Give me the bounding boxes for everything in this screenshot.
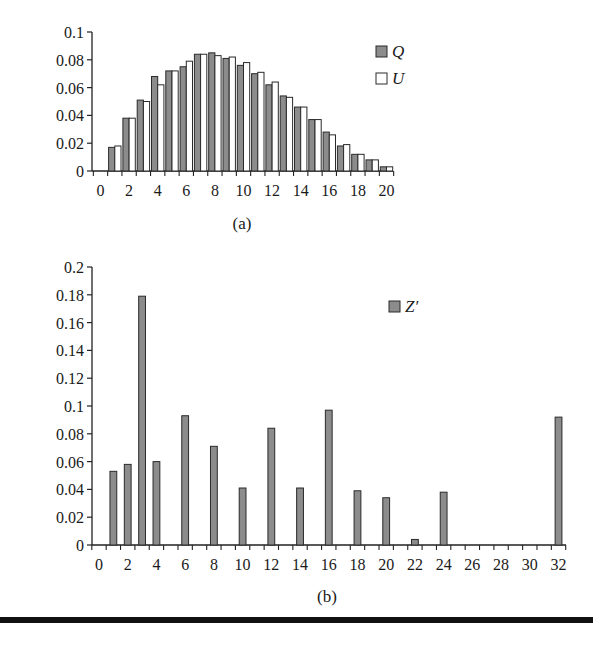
x-tick-label: 22 bbox=[407, 556, 423, 573]
legend-label-Z′: Z′ bbox=[405, 297, 418, 316]
bar-Z′-3 bbox=[139, 296, 146, 545]
legend-label-Q: Q bbox=[392, 42, 404, 61]
bar-U-1 bbox=[115, 146, 121, 171]
bar-Q-17 bbox=[337, 146, 343, 171]
x-tick-label: 4 bbox=[152, 556, 160, 573]
bar-Q-4 bbox=[152, 76, 158, 171]
x-tick-label: 32 bbox=[551, 556, 567, 573]
bar-U-9 bbox=[229, 57, 235, 171]
bar-Z′-22 bbox=[412, 539, 419, 545]
bar-Q-19 bbox=[366, 160, 372, 171]
x-tick-label: 18 bbox=[350, 182, 366, 199]
x-tick-label: 8 bbox=[211, 182, 219, 199]
bar-U-19 bbox=[372, 160, 378, 171]
x-tick-label: 10 bbox=[235, 556, 251, 573]
page-rule-divider bbox=[0, 617, 593, 623]
bar-Z′-24 bbox=[440, 492, 447, 545]
legend-swatch-Z′ bbox=[389, 301, 400, 312]
x-tick-label: 4 bbox=[154, 182, 162, 199]
bar-Q-18 bbox=[352, 154, 358, 171]
bar-Q-10 bbox=[237, 65, 243, 171]
bar-Q-15 bbox=[309, 120, 315, 171]
bar-Z′-8 bbox=[210, 446, 217, 545]
y-tick-label: 0.12 bbox=[56, 370, 84, 387]
y-tick-label: 0.18 bbox=[56, 287, 84, 304]
bar-Q-5 bbox=[166, 71, 172, 171]
chart-b-z-prime-distribution: 00.020.040.060.080.10.120.140.160.180.20… bbox=[0, 250, 593, 590]
x-tick-label: 0 bbox=[97, 182, 105, 199]
bar-Q-11 bbox=[252, 74, 258, 171]
bar-Q-2 bbox=[123, 118, 129, 171]
x-tick-label: 12 bbox=[264, 182, 280, 199]
bar-Q-3 bbox=[137, 100, 143, 171]
y-tick-label: 0.1 bbox=[64, 398, 84, 415]
x-tick-label: 28 bbox=[493, 556, 509, 573]
bar-U-14 bbox=[301, 107, 307, 171]
x-tick-label: 20 bbox=[379, 182, 395, 199]
legend-label-U: U bbox=[392, 69, 406, 88]
bar-U-18 bbox=[358, 154, 364, 171]
bar-Q-8 bbox=[209, 53, 215, 171]
x-tick-label: 16 bbox=[321, 182, 337, 199]
bar-U-7 bbox=[201, 54, 207, 171]
bar-Z′-1 bbox=[110, 471, 117, 545]
x-tick-label: 14 bbox=[293, 182, 309, 199]
legend-swatch-Q bbox=[376, 46, 387, 57]
x-tick-label: 10 bbox=[236, 182, 252, 199]
bar-Z′-4 bbox=[153, 462, 160, 545]
x-tick-label: 26 bbox=[464, 556, 480, 573]
bar-U-15 bbox=[315, 120, 321, 171]
figure: 00.020.040.060.080.102468101214161820QU … bbox=[0, 0, 593, 655]
bar-U-10 bbox=[244, 63, 250, 171]
y-tick-label: 0.06 bbox=[56, 80, 84, 97]
x-tick-label: 18 bbox=[349, 556, 365, 573]
legend-swatch-U bbox=[376, 73, 387, 84]
y-tick-label: 0.14 bbox=[56, 342, 84, 359]
x-tick-label: 24 bbox=[436, 556, 452, 573]
bar-Z′-2 bbox=[124, 464, 131, 545]
bar-Z′-16 bbox=[325, 410, 332, 545]
caption-b: (b) bbox=[297, 587, 357, 607]
bar-Z′-18 bbox=[354, 491, 361, 545]
y-tick-label: 0.16 bbox=[56, 315, 84, 332]
y-tick-label: 0.02 bbox=[56, 509, 84, 526]
y-tick-label: 0 bbox=[76, 537, 84, 554]
x-tick-label: 2 bbox=[124, 556, 132, 573]
bar-Q-12 bbox=[266, 85, 272, 171]
x-tick-label: 30 bbox=[522, 556, 538, 573]
y-tick-label: 0.08 bbox=[56, 52, 84, 69]
y-tick-label: 0.2 bbox=[64, 259, 84, 276]
y-tick-label: 0.04 bbox=[56, 481, 84, 498]
bar-Q-1 bbox=[109, 147, 115, 171]
chart-a-q-u-distribution: 00.020.040.060.080.102468101214161820QU bbox=[0, 0, 593, 240]
caption-a: (a) bbox=[212, 214, 272, 234]
bar-U-17 bbox=[344, 145, 350, 171]
bar-U-3 bbox=[143, 102, 149, 172]
bar-Z′-12 bbox=[268, 428, 275, 545]
x-tick-label: 8 bbox=[210, 556, 218, 573]
bar-Z′-20 bbox=[383, 498, 390, 545]
bar-Q-6 bbox=[180, 67, 186, 171]
x-tick-label: 6 bbox=[181, 556, 189, 573]
x-tick-label: 14 bbox=[292, 556, 308, 573]
bar-Z′-6 bbox=[182, 416, 189, 545]
bar-Q-13 bbox=[280, 96, 286, 171]
bar-Q-20 bbox=[380, 167, 386, 171]
x-tick-label: 20 bbox=[378, 556, 394, 573]
bar-U-12 bbox=[272, 82, 278, 171]
bar-U-4 bbox=[158, 85, 164, 171]
x-tick-label: 2 bbox=[125, 182, 133, 199]
x-tick-label: 16 bbox=[321, 556, 337, 573]
bar-U-16 bbox=[329, 135, 335, 171]
bar-U-2 bbox=[129, 118, 135, 171]
bar-U-20 bbox=[387, 167, 393, 171]
y-tick-label: 0.02 bbox=[56, 135, 84, 152]
bar-Q-9 bbox=[223, 58, 229, 171]
y-tick-label: 0.08 bbox=[56, 426, 84, 443]
bar-U-11 bbox=[258, 72, 264, 171]
y-tick-label: 0 bbox=[76, 163, 84, 180]
y-tick-label: 0.06 bbox=[56, 454, 84, 471]
x-tick-label: 0 bbox=[95, 556, 103, 573]
bar-U-8 bbox=[215, 56, 221, 171]
bar-Z′-10 bbox=[239, 488, 246, 545]
